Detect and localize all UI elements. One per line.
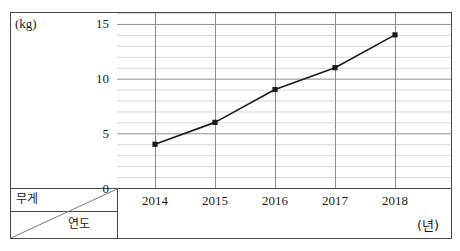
- x-tick-label: 2016: [245, 194, 305, 207]
- y-tick-label: 10: [75, 72, 109, 85]
- corner-legend-cell: 무게 연도: [10, 188, 118, 239]
- x-tick-label: 2015: [185, 194, 245, 207]
- y-axis-unit-label: (kg): [15, 17, 37, 30]
- data-point-marker[interactable]: [272, 87, 277, 92]
- plot-area: [117, 13, 451, 188]
- chart-page: (kg) (년) 무게 연도 051015 201420152016201720…: [0, 0, 460, 251]
- data-point-marker[interactable]: [392, 32, 397, 37]
- data-point-marker[interactable]: [332, 65, 337, 70]
- data-point-marker[interactable]: [152, 142, 157, 147]
- y-tick-label: 0: [75, 182, 109, 195]
- corner-row-label: 무게: [16, 193, 38, 205]
- x-tick-label: 2014: [125, 194, 185, 207]
- corner-column-label: 연도: [68, 218, 90, 230]
- data-point-marker[interactable]: [212, 120, 217, 125]
- y-tick-label: 5: [75, 127, 109, 140]
- x-tick-label: 2018: [365, 194, 425, 207]
- y-tick-label: 15: [75, 17, 109, 30]
- x-axis-unit-label: (년): [417, 219, 439, 232]
- x-tick-label: 2017: [305, 194, 365, 207]
